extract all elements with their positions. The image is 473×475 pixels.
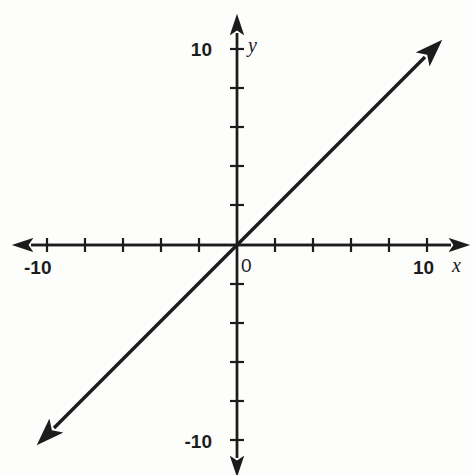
y-max-label: 10: [191, 39, 212, 60]
y-axis-name-label: y: [246, 34, 257, 57]
x-min-label: -10: [24, 257, 51, 278]
line-ray-upper-right: [237, 57, 425, 245]
y-min-label: -10: [185, 431, 212, 452]
x-axis-name-label: x: [451, 254, 461, 276]
line-ray-lower-left: [54, 245, 237, 428]
x-max-label: 10: [413, 257, 434, 278]
origin-label: 0: [241, 255, 252, 276]
line-series-y-equals-x: [54, 57, 425, 428]
coordinate-graph-figure: 10 -10 -10 10 0 y x: [0, 0, 473, 475]
graph-canvas: 10 -10 -10 10 0 y x: [0, 0, 473, 475]
